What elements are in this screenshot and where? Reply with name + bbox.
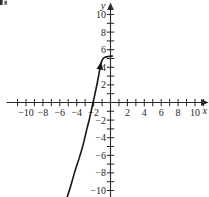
x-tick-label: −4 — [71, 107, 82, 118]
y-tick-label: −4 — [95, 132, 106, 143]
graph-canvas: −10−8−6−4−2246810 108642−2−4−6−8−10 y x — [0, 0, 209, 197]
y-tick-label: −6 — [95, 150, 106, 161]
x-tick-label: −10 — [18, 107, 34, 118]
x-tick-label: −8 — [38, 107, 49, 118]
y-axis-arrowhead-icon — [107, 3, 114, 11]
x-tick-label: 8 — [176, 107, 181, 118]
x-tick-label: 2 — [125, 107, 130, 118]
y-axis-letter: y — [100, 0, 106, 11]
x-tick-label: 10 — [190, 107, 200, 118]
x-tick-label: 6 — [159, 107, 164, 118]
y-tick-label: 8 — [101, 27, 106, 38]
x-axis-letter: x — [202, 105, 208, 116]
x-tick-label: 4 — [142, 107, 147, 118]
x-axis-tick-labels: −10−8−6−4−2246810 — [18, 107, 200, 118]
corner-artifact — [0, 0, 7, 5]
x-tick-label: −6 — [54, 107, 65, 118]
graph-figure: −10−8−6−4−2246810 108642−2−4−6−8−10 y x — [0, 0, 209, 197]
y-tick-label: −2 — [95, 115, 106, 126]
y-tick-label: 6 — [101, 44, 106, 55]
y-tick-label: −8 — [95, 167, 106, 178]
y-tick-label: −10 — [90, 185, 106, 196]
y-tick-label: 2 — [101, 79, 106, 90]
